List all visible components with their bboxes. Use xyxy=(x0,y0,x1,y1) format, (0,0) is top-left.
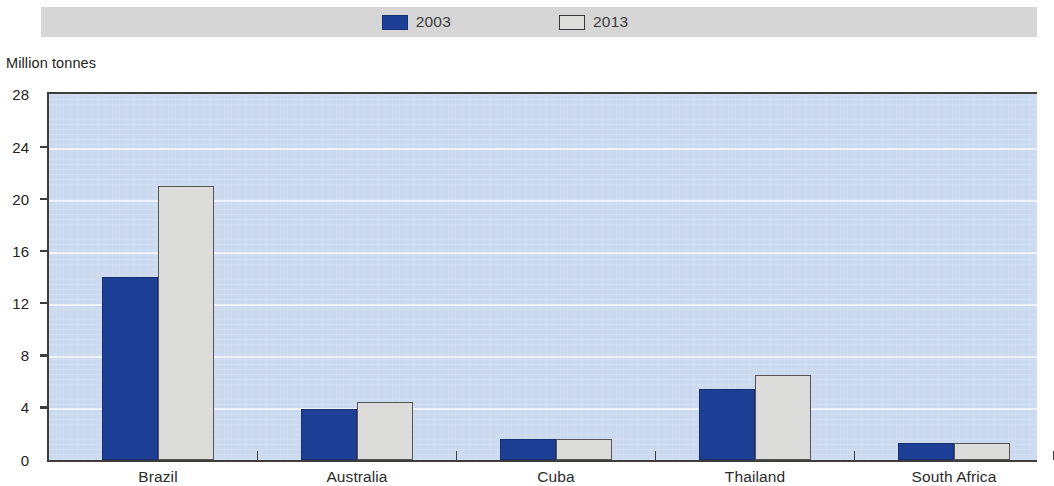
bar-2013-australia xyxy=(357,402,413,459)
y-axis-tick-label: 4 xyxy=(0,399,29,416)
bar-group xyxy=(301,90,413,460)
y-axis-tick-label: 0 xyxy=(0,451,29,468)
x-axis-label-brazil: Brazil xyxy=(138,468,177,486)
bar-2003-cuba xyxy=(500,439,556,460)
bar-2003-brazil xyxy=(102,277,158,460)
x-axis-tick xyxy=(854,451,856,460)
x-axis-label-south-africa: South Africa xyxy=(912,468,997,486)
y-axis-tick-label: 8 xyxy=(0,347,29,364)
legend-label-2003: 2003 xyxy=(416,14,451,30)
bar-2003-australia xyxy=(301,409,357,460)
x-axis-tick xyxy=(257,451,259,460)
bars-layer xyxy=(47,92,1037,462)
x-axis-label-cuba: Cuba xyxy=(537,468,574,486)
y-axis-tick-label: 28 xyxy=(0,86,29,103)
legend-items: 2003 2013 xyxy=(382,14,629,30)
x-axis-tick xyxy=(456,451,458,460)
x-axis-tick xyxy=(655,451,657,460)
y-axis-tick-label: 12 xyxy=(0,295,29,312)
bar-group xyxy=(500,90,612,460)
legend-swatch-2003-icon xyxy=(382,15,408,30)
legend-swatch-2013-icon xyxy=(559,15,585,30)
legend-entry-2003: 2003 xyxy=(382,14,451,30)
bar-2013-south-africa xyxy=(954,443,1010,460)
y-axis-tick-label: 16 xyxy=(0,242,29,259)
y-axis-unit-title: Million tonnes xyxy=(6,55,96,71)
legend-entry-2013: 2013 xyxy=(559,14,628,30)
bar-2013-brazil xyxy=(158,186,214,460)
bar-2003-thailand xyxy=(699,389,755,459)
x-axis-labels: BrazilAustraliaCubaThailandSouth Africa xyxy=(47,468,1037,486)
y-axis-tick-label: 20 xyxy=(0,190,29,207)
bar-2013-cuba xyxy=(556,439,612,460)
x-axis-label-australia: Australia xyxy=(326,468,387,486)
chart-legend: 2003 2013 xyxy=(41,7,1037,37)
bar-group xyxy=(699,90,811,460)
legend-label-2013: 2013 xyxy=(593,14,628,30)
x-axis-label-thailand: Thailand xyxy=(725,468,785,486)
y-axis-tick-label: 24 xyxy=(0,138,29,155)
bar-group xyxy=(898,90,1010,460)
bar-chart: 0481216202428 BrazilAustraliaCubaThailan… xyxy=(0,86,1037,481)
bar-group xyxy=(102,90,214,460)
bar-2013-thailand xyxy=(755,375,811,460)
bar-2003-south-africa xyxy=(898,443,954,460)
